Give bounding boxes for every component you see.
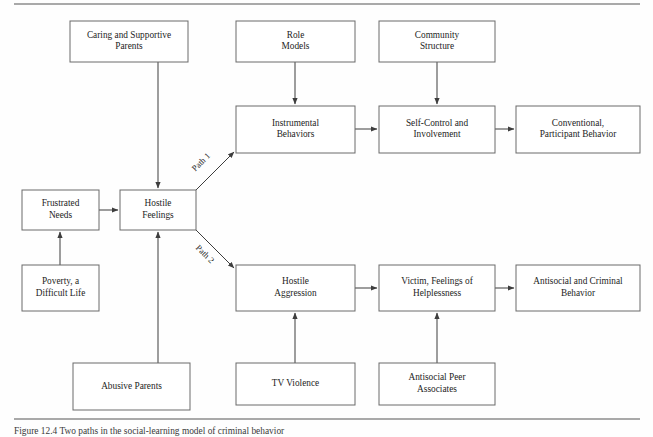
- node-label-line: Hostile: [145, 198, 172, 208]
- node-label-line: Antisocial Peer: [408, 372, 466, 382]
- node-label-line: Associates: [417, 384, 457, 394]
- node-label-line: Difficult Life: [36, 288, 86, 298]
- node-label-line: TV Violence: [272, 378, 319, 388]
- edge-hostile-to-instrumental: Path 1: [190, 151, 234, 190]
- node-caring_parents: Caring and SupportiveParents: [70, 21, 188, 62]
- node-label-line: Parents: [115, 41, 143, 51]
- node-layer: Caring and SupportiveParentsRoleModelsCo…: [22, 21, 640, 410]
- node-label-line: Role: [287, 30, 305, 40]
- node-label-line: Antisocial and Criminal: [533, 276, 623, 286]
- node-victim_helplessness: Victim, Feelings ofHelplessness: [379, 265, 495, 311]
- node-label-line: Caring and Supportive: [87, 30, 171, 40]
- node-label-line: Structure: [420, 41, 454, 51]
- flowchart-diagram: Path 1Path 2 Caring and SupportiveParent…: [0, 0, 653, 437]
- node-self_control: Self-Control andInvolvement: [379, 106, 495, 153]
- path-label-hostile-to-instrumental: Path 1: [190, 151, 212, 173]
- figure-caption-container: Figure 12.4 Two paths in the social-lear…: [14, 426, 640, 437]
- node-conventional_behavior: Conventional,Participant Behavior: [516, 106, 640, 153]
- node-label-line: Behaviors: [277, 129, 315, 139]
- node-label-line: Frustrated: [42, 198, 80, 208]
- node-frustrated_needs: FrustratedNeeds: [22, 190, 99, 230]
- edge-hostile-to-aggression: Path 2: [194, 230, 234, 268]
- node-label-line: Hostile: [282, 276, 309, 286]
- node-antisocial_criminal: Antisocial and CriminalBehavior: [516, 265, 640, 311]
- node-label-line: Self-Control and: [406, 118, 469, 128]
- figure-container: Path 1Path 2 Caring and SupportiveParent…: [0, 0, 653, 437]
- node-label-line: Models: [282, 41, 310, 51]
- node-label-line: Victim, Feelings of: [401, 276, 473, 286]
- node-label-line: Abusive Parents: [101, 381, 162, 391]
- node-antisocial_peers: Antisocial PeerAssociates: [379, 363, 495, 405]
- node-hostile_aggression: HostileAggression: [236, 265, 355, 311]
- node-label-line: Behavior: [561, 288, 596, 298]
- node-label-line: Helplessness: [413, 288, 461, 298]
- node-instrumental_behaviors: InstrumentalBehaviors: [236, 106, 355, 153]
- node-role_models: RoleModels: [236, 21, 355, 62]
- node-label-line: Involvement: [414, 129, 461, 139]
- figure-caption: Figure 12.4 Two paths in the social-lear…: [14, 426, 640, 437]
- node-hostile_feelings: HostileFeelings: [120, 190, 196, 230]
- node-label-line: Conventional,: [552, 118, 604, 128]
- node-poverty: Poverty, aDifficult Life: [22, 265, 99, 311]
- node-label-line: Needs: [49, 210, 73, 220]
- node-tv_violence: TV Violence: [236, 363, 355, 405]
- node-abusive_parents: Abusive Parents: [73, 363, 190, 410]
- node-community_structure: CommunityStructure: [379, 21, 495, 62]
- node-label-line: Community: [415, 30, 460, 40]
- node-label-line: Aggression: [274, 288, 317, 298]
- node-label-line: Instrumental: [272, 118, 319, 128]
- node-label-line: Participant Behavior: [540, 129, 618, 139]
- node-label-line: Poverty, a: [42, 276, 79, 286]
- node-label-line: Feelings: [142, 210, 174, 220]
- path-label-hostile-to-aggression: Path 2: [194, 243, 216, 265]
